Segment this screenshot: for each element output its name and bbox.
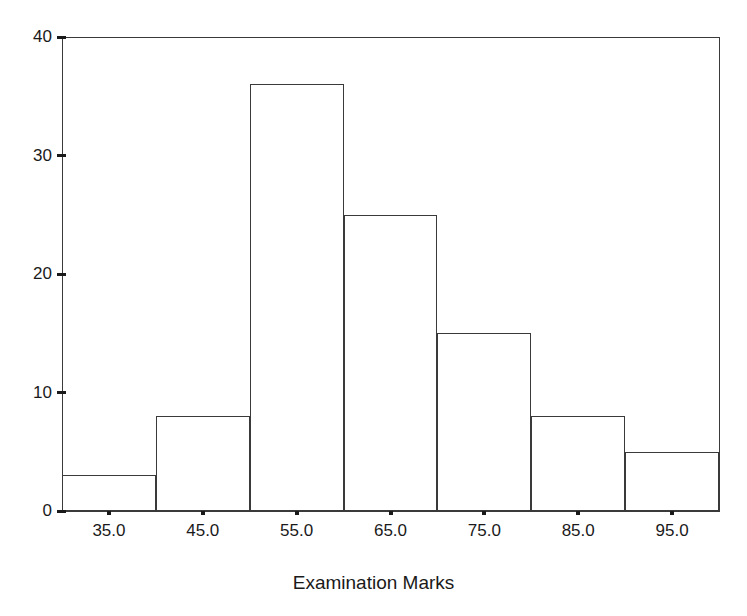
histogram-bar <box>156 416 250 511</box>
x-axis-tick-label: 45.0 <box>158 521 248 541</box>
y-axis-tick-label: 40 <box>0 28 52 45</box>
x-axis-tick <box>201 511 205 515</box>
y-axis-tick-label: 20 <box>0 265 52 282</box>
x-axis-tick <box>295 511 299 515</box>
histogram-bar <box>250 84 344 511</box>
bars-layer <box>62 37 719 511</box>
x-axis-tick-label: 35.0 <box>64 521 154 541</box>
y-axis-tick <box>57 36 66 39</box>
y-axis-tick <box>57 510 66 513</box>
histogram-chart: 010203040 35.045.055.065.075.085.095.0 E… <box>0 0 747 616</box>
x-axis-tick-label: 95.0 <box>627 521 717 541</box>
y-axis-tick-label: 30 <box>0 147 52 164</box>
y-axis-tick-label: 10 <box>0 384 52 401</box>
x-axis-tick-label: 65.0 <box>346 521 436 541</box>
histogram-bar <box>62 475 156 511</box>
y-axis-tick-label: 0 <box>0 502 52 519</box>
histogram-bar <box>625 452 719 511</box>
x-axis-tick-label: 75.0 <box>439 521 529 541</box>
x-axis-tick-label: 85.0 <box>533 521 623 541</box>
histogram-bar <box>344 215 438 511</box>
y-axis-tick <box>57 391 66 394</box>
histogram-bar <box>437 333 531 511</box>
y-axis-tick <box>57 154 66 157</box>
y-axis-tick <box>57 273 66 276</box>
x-axis-tick <box>482 511 486 515</box>
x-axis-tick-label: 55.0 <box>252 521 342 541</box>
histogram-bar <box>531 416 625 511</box>
x-axis-title: Examination Marks <box>0 571 747 594</box>
x-axis-tick <box>576 511 580 515</box>
x-axis-tick <box>670 511 674 515</box>
x-axis-tick <box>107 511 111 515</box>
x-axis-tick <box>389 511 393 515</box>
